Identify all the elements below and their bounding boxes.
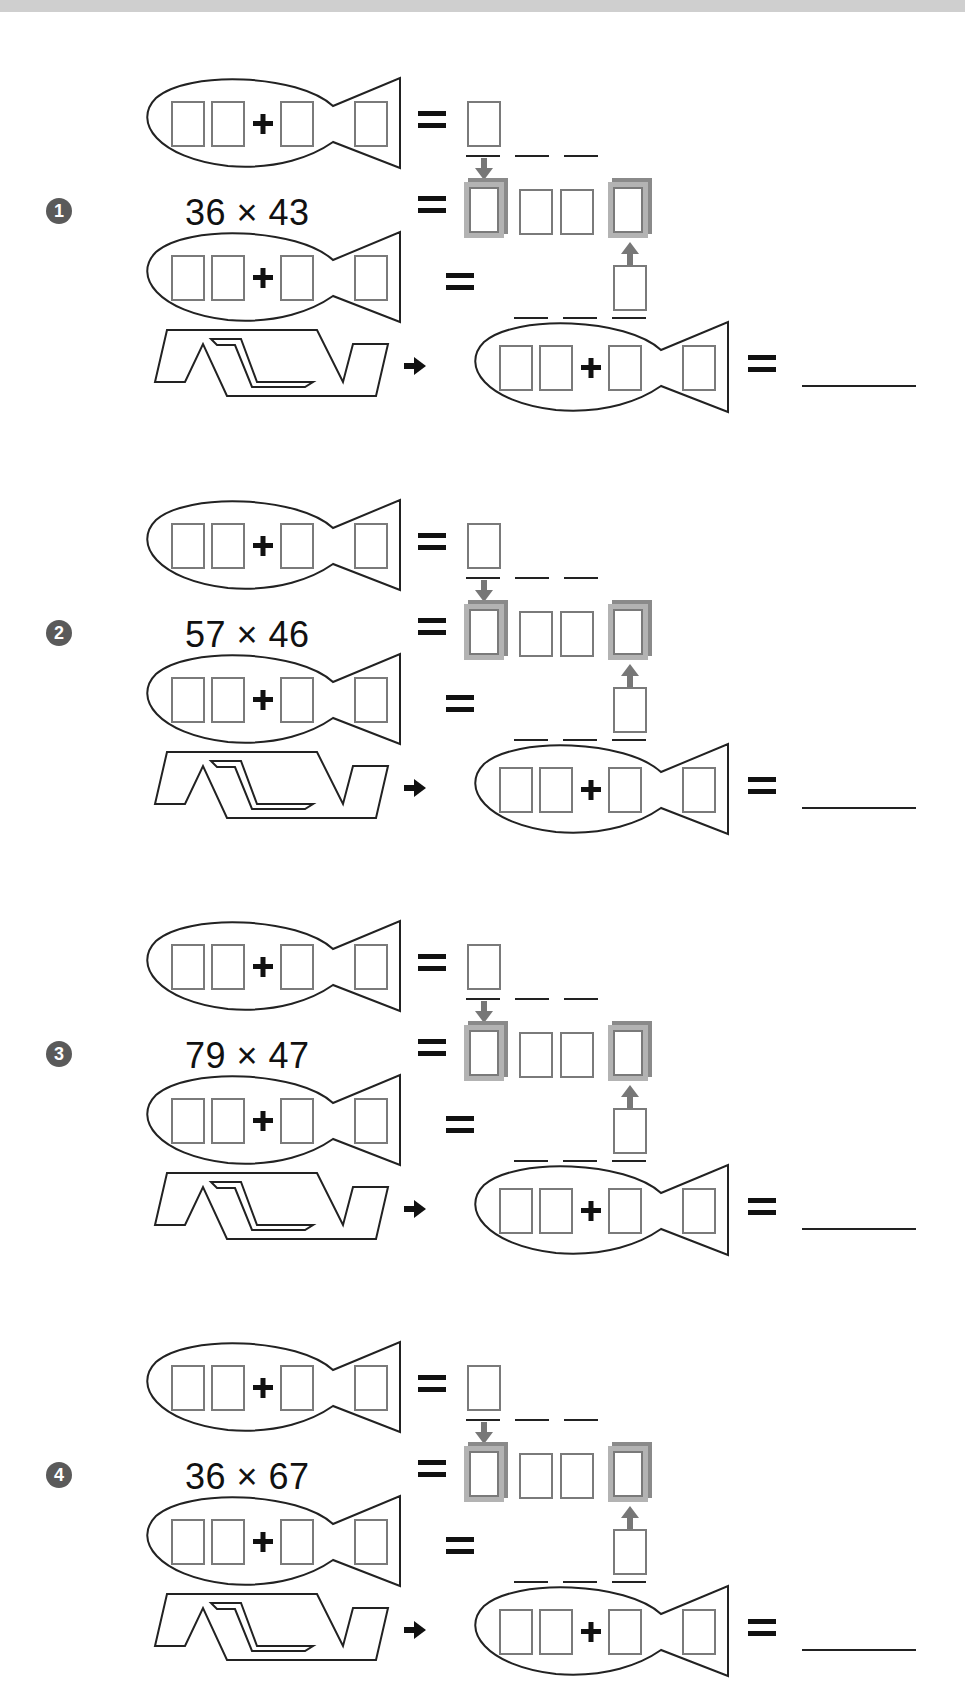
equals-icon [446, 1116, 474, 1133]
digit-box[interactable] [500, 1189, 532, 1233]
digit-box[interactable] [561, 612, 593, 656]
arrow-right-icon [404, 1621, 426, 1639]
digit-box[interactable] [683, 1610, 715, 1654]
digit-box[interactable] [468, 102, 500, 146]
digit-box[interactable] [609, 1189, 641, 1233]
digit-box[interactable] [212, 102, 244, 146]
digit-box[interactable] [172, 1520, 204, 1564]
digit-box[interactable] [281, 1366, 313, 1410]
digit-box[interactable] [520, 612, 552, 656]
highlighted-digit-box[interactable] [464, 178, 508, 238]
digit-box[interactable] [614, 266, 646, 310]
problem-number-badge: 1 [46, 198, 72, 224]
digit-box[interactable] [281, 524, 313, 568]
fish-shape [475, 744, 728, 834]
plus-icon [253, 690, 273, 710]
digit-box[interactable] [212, 1366, 244, 1410]
digit-box[interactable] [500, 768, 532, 812]
digit-box[interactable] [355, 1520, 387, 1564]
highlighted-digit-box[interactable] [464, 1442, 508, 1502]
problem-number-badge: 2 [46, 620, 72, 646]
digit-box[interactable] [212, 945, 244, 989]
digit-box[interactable] [540, 1610, 572, 1654]
digit-box[interactable] [281, 256, 313, 300]
paper-strip-shape [155, 330, 388, 396]
fish-shape [147, 921, 400, 1011]
digit-box[interactable] [561, 190, 593, 234]
highlighted-digit-box[interactable] [608, 178, 652, 238]
digit-box[interactable] [540, 346, 572, 390]
multiplication-expression: 36 × 43 [185, 192, 310, 234]
digit-box[interactable] [614, 1109, 646, 1153]
highlighted-digit-box[interactable] [608, 1021, 652, 1081]
digit-box[interactable] [355, 102, 387, 146]
digit-box[interactable] [172, 678, 204, 722]
digit-box[interactable] [500, 346, 532, 390]
digit-box[interactable] [281, 678, 313, 722]
plus-icon [253, 957, 273, 977]
digit-box[interactable] [355, 1366, 387, 1410]
digit-box[interactable] [520, 190, 552, 234]
equals-icon [446, 273, 474, 290]
digit-box[interactable] [609, 1610, 641, 1654]
digit-box[interactable] [561, 1454, 593, 1498]
highlighted-digit-box[interactable] [608, 600, 652, 660]
digit-box[interactable] [281, 945, 313, 989]
plus-icon [581, 358, 601, 378]
digit-box[interactable] [212, 256, 244, 300]
problem-4: 4 36 × 67 [0, 1324, 965, 1693]
plus-icon [253, 268, 273, 288]
equals-icon [418, 196, 446, 213]
digit-box[interactable] [172, 1366, 204, 1410]
digit-box[interactable] [520, 1454, 552, 1498]
arrow-up-icon [621, 664, 639, 688]
digit-box[interactable] [614, 1530, 646, 1574]
multiplication-expression: 79 × 47 [185, 1035, 310, 1077]
highlighted-digit-box[interactable] [464, 1021, 508, 1081]
digit-box[interactable] [212, 524, 244, 568]
equals-icon [748, 1619, 776, 1636]
digit-box[interactable] [172, 524, 204, 568]
digit-box[interactable] [212, 1099, 244, 1143]
highlighted-digit-box[interactable] [464, 600, 508, 660]
digit-box[interactable] [683, 1189, 715, 1233]
digit-box[interactable] [281, 1520, 313, 1564]
digit-box[interactable] [355, 1099, 387, 1143]
equals-icon [418, 1375, 446, 1392]
digit-box[interactable] [355, 945, 387, 989]
plus-icon [581, 1622, 601, 1642]
digit-box[interactable] [281, 1099, 313, 1143]
digit-box[interactable] [540, 1189, 572, 1233]
digit-box[interactable] [172, 945, 204, 989]
digit-box[interactable] [355, 256, 387, 300]
digit-box[interactable] [520, 1033, 552, 1077]
highlighted-digit-box[interactable] [608, 1442, 652, 1502]
digit-box[interactable] [212, 678, 244, 722]
plus-icon [253, 1111, 273, 1131]
digit-box[interactable] [281, 102, 313, 146]
equals-icon [748, 355, 776, 372]
digit-box[interactable] [355, 678, 387, 722]
digit-box[interactable] [561, 1033, 593, 1077]
plus-icon [253, 114, 273, 134]
arrow-down-icon [475, 1001, 493, 1023]
digit-box[interactable] [172, 1099, 204, 1143]
equals-icon [418, 1039, 446, 1056]
multiplication-expression: 36 × 67 [185, 1456, 310, 1498]
digit-box[interactable] [468, 945, 500, 989]
digit-box[interactable] [468, 524, 500, 568]
digit-box[interactable] [540, 768, 572, 812]
digit-box[interactable] [683, 346, 715, 390]
multiplication-expression: 57 × 46 [185, 614, 310, 656]
equals-icon [418, 954, 446, 971]
digit-box[interactable] [355, 524, 387, 568]
digit-box[interactable] [609, 346, 641, 390]
digit-box[interactable] [172, 256, 204, 300]
digit-box[interactable] [500, 1610, 532, 1654]
digit-box[interactable] [609, 768, 641, 812]
digit-box[interactable] [212, 1520, 244, 1564]
digit-box[interactable] [172, 102, 204, 146]
digit-box[interactable] [683, 768, 715, 812]
digit-box[interactable] [614, 688, 646, 732]
digit-box[interactable] [468, 1366, 500, 1410]
